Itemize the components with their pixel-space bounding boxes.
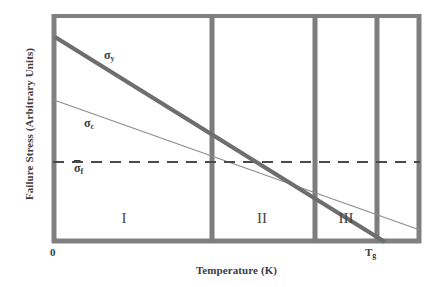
x-axis-title: Temperature (K): [52, 264, 421, 276]
region-label-three: III: [331, 210, 361, 227]
tg-subscript: g: [372, 251, 376, 260]
x-tick-label-tg: Tg: [365, 246, 376, 258]
sigma-y-label: σy: [104, 48, 115, 63]
sigma-f-subscript: f: [81, 167, 84, 176]
sigma-c-curve: [54, 100, 420, 230]
y-axis-title: Failure Stress (Arbitrary Units): [23, 9, 35, 239]
sigma-c-symbol: σ: [84, 116, 91, 130]
sigma-y-symbol: σ: [104, 48, 111, 62]
sigma-f-mean-label: σf: [74, 161, 83, 176]
sigma-f-symbol-overbar: σ: [74, 161, 81, 175]
region-label-two: II: [250, 210, 274, 227]
region-dividers: [212, 15, 377, 242]
x-tick-label-zero: 0: [50, 246, 56, 258]
sigma-c-label: σc: [84, 116, 94, 131]
sigma-y-subscript: y: [111, 54, 115, 63]
sigma-c-subscript: c: [91, 122, 95, 131]
failure-stress-vs-temperature-chart: Failure Stress (Arbitrary Units) Tempera…: [0, 0, 441, 287]
region-label-one: I: [112, 210, 136, 227]
chart-plot-area: [0, 0, 441, 287]
